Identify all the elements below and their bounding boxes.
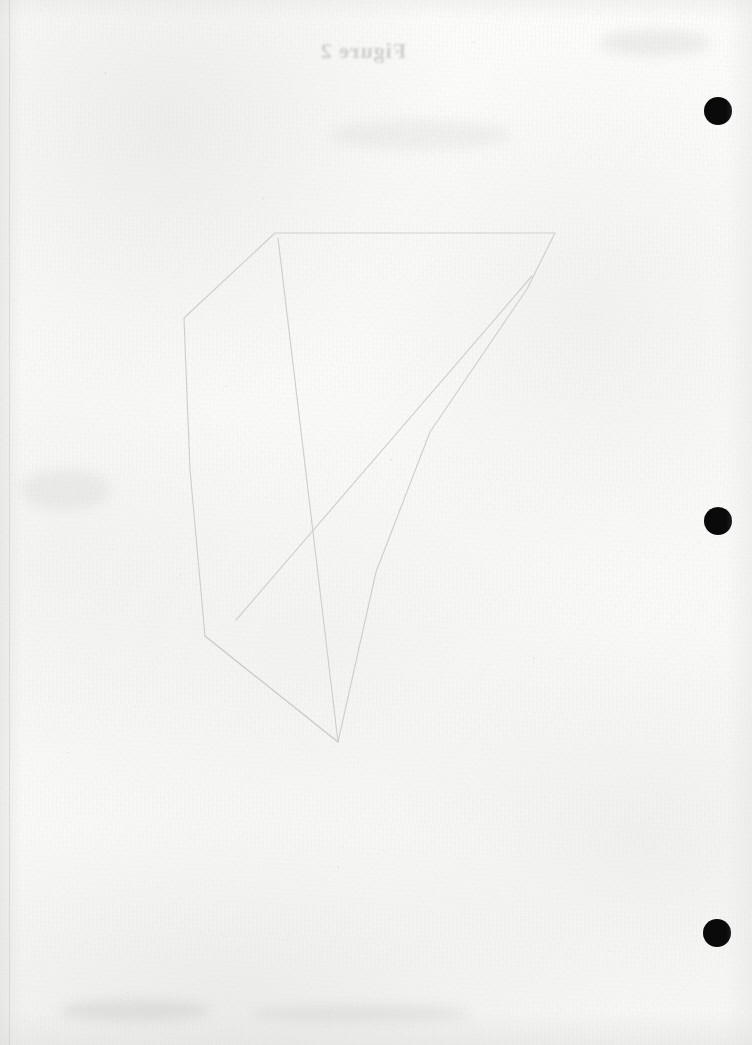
- page-edge-shading: [0, 0, 752, 1045]
- scanned-page: Figure 2: [0, 0, 752, 1045]
- page-left-edge-rule: [9, 0, 10, 1045]
